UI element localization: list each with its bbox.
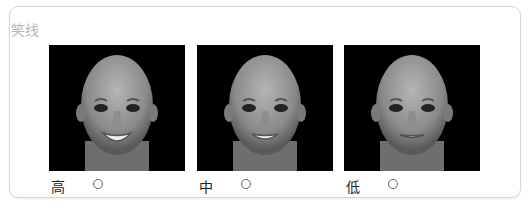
radio-medium[interactable] xyxy=(241,179,251,189)
option-low[interactable]: 低 xyxy=(344,45,480,171)
radio-high[interactable] xyxy=(93,179,103,189)
option-label-low: 低 xyxy=(346,176,360,196)
option-row-high: 高 xyxy=(49,176,185,196)
option-medium[interactable]: 中 xyxy=(197,45,333,171)
face-image-low-smile[interactable] xyxy=(344,45,480,171)
option-row-low: 低 xyxy=(344,176,480,196)
face-image-high-smile[interactable] xyxy=(49,45,185,171)
radio-low[interactable] xyxy=(388,179,398,189)
option-high[interactable]: 高 xyxy=(49,45,185,171)
section-title: 笑线 xyxy=(11,19,39,39)
option-row-medium: 中 xyxy=(197,176,333,196)
face-image-medium-smile[interactable] xyxy=(197,45,333,171)
option-label-medium: 中 xyxy=(199,176,213,196)
option-label-high: 高 xyxy=(51,176,65,196)
